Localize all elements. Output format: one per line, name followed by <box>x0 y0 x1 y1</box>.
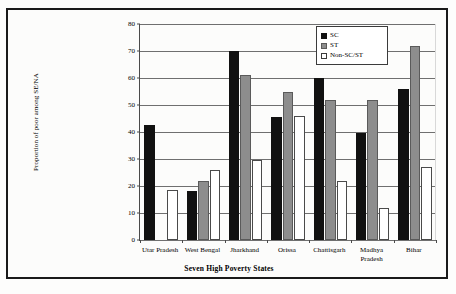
y-tick-label-20: 20 <box>128 183 135 190</box>
bar-sc <box>314 78 325 240</box>
bar-st <box>367 100 378 240</box>
bar-sc <box>229 51 240 240</box>
x-axis-label-1: West Bengal <box>181 246 223 255</box>
bar-sc <box>398 89 409 240</box>
y-tick-label-50: 50 <box>128 102 135 109</box>
y-tick-label-80: 80 <box>128 21 135 28</box>
y-axis-title: Proportion of poor among SE/NA <box>32 32 40 212</box>
x-tick-mark <box>182 240 183 243</box>
bar-nonscst <box>252 160 263 240</box>
legend-item-sc: SC <box>321 31 383 40</box>
x-axis-label-3: Orissa <box>266 246 308 255</box>
bar-group <box>182 24 224 240</box>
x-tick-mark-origin <box>140 240 141 243</box>
y-tick-label-30: 30 <box>128 156 135 163</box>
x-tick-mark <box>436 240 437 243</box>
x-tick-mark <box>309 240 310 243</box>
bar-chart-figure: Proportion of poor among SE/NA Seven Hig… <box>0 0 456 294</box>
bar-sc <box>187 191 198 240</box>
bar-st <box>410 46 421 240</box>
bar-nonscst <box>421 167 432 240</box>
y-tick-label-0: 0 <box>132 237 136 244</box>
x-axis-title: Seven High Poverty States <box>8 264 450 273</box>
x-tick-mark <box>351 240 352 243</box>
x-axis-label-0: Utar Pradesh <box>139 246 181 255</box>
x-axis-label-6: Bihar <box>393 246 435 255</box>
bar-nonscst <box>294 116 305 240</box>
y-tick-label-40: 40 <box>128 129 135 136</box>
x-axis-label-5: Madhya Pradesh <box>350 246 392 264</box>
bar-sc <box>356 133 367 240</box>
bar-st <box>283 92 294 241</box>
x-tick-mark <box>267 240 268 243</box>
legend-item-non-sc-st: Non-SC/ST <box>321 51 383 60</box>
x-tick-mark <box>225 240 226 243</box>
x-axis-label-2: Jharkhand <box>224 246 266 255</box>
x-tick-mark <box>394 240 395 243</box>
bar-group <box>140 24 182 240</box>
bar-nonscst <box>337 181 348 240</box>
legend-swatch-non-sc-st <box>321 53 327 59</box>
bar-sc <box>144 125 155 240</box>
bar-sc <box>271 117 282 240</box>
bar-group <box>225 24 267 240</box>
legend-item-st: ST <box>321 41 383 50</box>
gridline-0: 0 <box>140 240 436 241</box>
legend-swatch-sc <box>321 33 327 39</box>
bar-st <box>325 100 336 240</box>
bar-group <box>394 24 436 240</box>
legend-label-sc: SC <box>330 31 339 40</box>
bar-nonscst <box>210 170 221 240</box>
plot-area: 01020304050607080 <box>139 24 436 241</box>
y-tick-label-10: 10 <box>128 210 135 217</box>
figure-border: Proportion of poor among SE/NA Seven Hig… <box>6 8 448 279</box>
bar-group <box>267 24 309 240</box>
bar-st <box>198 181 209 240</box>
x-axis-label-4: Chattisgarh <box>308 246 350 255</box>
legend-label-st: ST <box>330 41 338 50</box>
chart-legend: SC ST Non-SC/ST <box>316 26 388 65</box>
bar-groups <box>140 24 436 240</box>
y-tick-label-70: 70 <box>128 48 135 55</box>
bar-nonscst <box>167 190 178 240</box>
legend-swatch-st <box>321 43 327 49</box>
bar-st <box>240 75 251 240</box>
legend-label-non-sc-st: Non-SC/ST <box>330 51 363 60</box>
y-tick-label-60: 60 <box>128 75 135 82</box>
bar-nonscst <box>379 208 390 240</box>
